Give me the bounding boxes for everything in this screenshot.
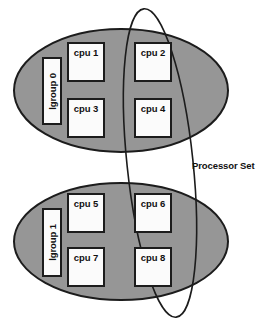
lgroup-processor-set-diagram: lgroup 0 cpu 1 cpu 2 cpu 3 cpu 4 lgroup …	[0, 0, 269, 333]
cpu-box-cpu-5: cpu 5	[67, 193, 105, 233]
cpu-box-cpu-1: cpu 1	[67, 42, 105, 82]
cpu-box-cpu-2: cpu 2	[134, 42, 172, 82]
cpu-box-cpu-6: cpu 6	[134, 193, 172, 233]
cpu-label-cpu-4: cpu 4	[141, 103, 165, 114]
cpu-box-cpu-7: cpu 7	[67, 247, 105, 287]
cpu-box-cpu-3: cpu 3	[67, 98, 105, 138]
cpu-label-cpu-5: cpu 5	[74, 198, 98, 209]
lgroup-0-label-box: lgroup 0	[42, 57, 62, 125]
cpu-box-cpu-4: cpu 4	[134, 98, 172, 138]
cpu-label-cpu-3: cpu 3	[74, 103, 98, 114]
cpu-label-cpu-2: cpu 2	[141, 47, 165, 58]
cpu-box-cpu-8: cpu 8	[134, 247, 172, 287]
cpu-label-cpu-8: cpu 8	[141, 252, 165, 263]
lgroup-1-label-box: lgroup 1	[42, 208, 62, 277]
cpu-label-cpu-7: cpu 7	[74, 252, 98, 263]
cpu-label-cpu-6: cpu 6	[141, 198, 165, 209]
lgroup-0-label: lgroup 0	[47, 73, 58, 110]
processor-set-label: Processor Set	[192, 160, 255, 171]
lgroup-1-label: lgroup 1	[47, 224, 58, 261]
cpu-label-cpu-1: cpu 1	[74, 47, 98, 58]
